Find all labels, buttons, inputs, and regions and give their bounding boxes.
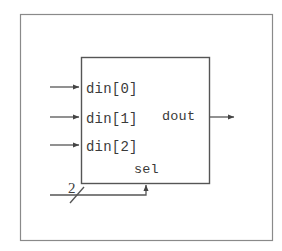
output-label-dout: dout [162, 109, 195, 124]
select-label-sel: sel [134, 162, 159, 177]
diagram-canvas: din[0] din[1] din[2] dout sel 2 [0, 0, 282, 251]
input-label-din0: din[0] [86, 81, 138, 97]
input-label-din1: din[1] [86, 111, 138, 127]
bus-width-label: 2 [68, 180, 76, 196]
block-diagram: din[0] din[1] din[2] dout sel 2 [0, 0, 282, 251]
select-bus-line [50, 185, 146, 195]
input-label-din2: din[2] [86, 139, 138, 155]
outer-frame [21, 15, 273, 241]
